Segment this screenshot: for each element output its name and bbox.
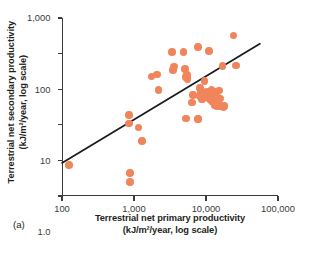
scatter-point: [194, 43, 202, 51]
x-axis-tick: [133, 196, 134, 201]
trend-line: [62, 18, 278, 196]
scatter-point: [168, 48, 176, 56]
scatter-point: [215, 87, 223, 95]
y-axis-title-line1: Terrestrial net secondary productivity: [6, 21, 16, 183]
figure-panel: Terrestrial net secondary productivity (…: [0, 0, 313, 259]
scatter-point: [126, 178, 134, 186]
scatter-point: [138, 137, 146, 145]
scatter-point: [125, 120, 133, 128]
x-axis-title-line1: Terrestrial net primary productivity: [95, 213, 245, 223]
scatter-point: [184, 75, 192, 83]
trend-line-segment: [62, 44, 260, 163]
scatter-point: [221, 102, 229, 110]
x-axis-tick: [277, 196, 278, 201]
panel-label: (a): [13, 219, 25, 230]
y-axis-tick-label: 10: [40, 154, 50, 165]
scatter-point: [153, 71, 161, 79]
x-axis-tick: [61, 196, 62, 201]
plot-area: 0.010.11.0101001,000 1001,00010,000100,0…: [62, 18, 278, 196]
y-axis-title: Terrestrial net secondary productivity (…: [0, 0, 34, 205]
y-axis-tick-label: 1.0: [37, 225, 50, 236]
scatter-point: [126, 169, 134, 177]
scatter-point: [232, 62, 240, 70]
y-axis-title-line2: (kJ/m²/year, log scale): [17, 21, 29, 183]
x-axis-title-line2: (kJ/m²/year, log scale): [62, 224, 278, 236]
scatter-point: [65, 161, 73, 169]
scatter-point: [201, 77, 209, 85]
scatter-point: [205, 47, 213, 55]
y-axis-tick-label: 1,000: [27, 12, 50, 23]
y-axis-tick-label: 100: [35, 83, 51, 94]
x-axis-title: Terrestrial net primary productivity (kJ…: [62, 212, 278, 237]
x-axis-tick: [205, 196, 206, 201]
